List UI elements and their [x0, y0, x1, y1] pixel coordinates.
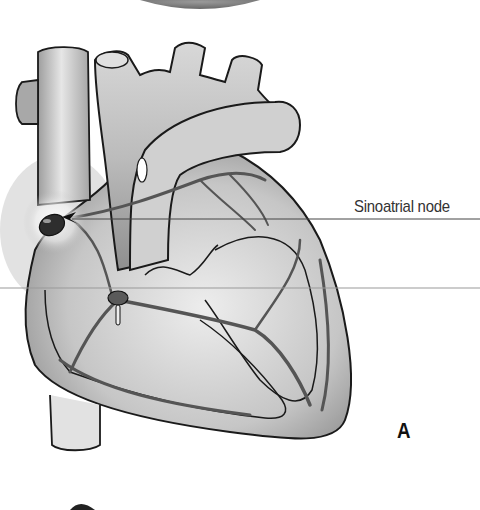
superior-vena-cava: [38, 47, 90, 205]
inferior-vena-cava: [50, 395, 100, 450]
sinoatrial-node-label: Sinoatrial node: [354, 197, 450, 217]
panel-letter: A: [397, 418, 411, 444]
pulmonary-artery-stub: [16, 80, 38, 124]
next-figure-fragment: [70, 504, 95, 510]
previous-figure-fragment: [140, 0, 260, 9]
